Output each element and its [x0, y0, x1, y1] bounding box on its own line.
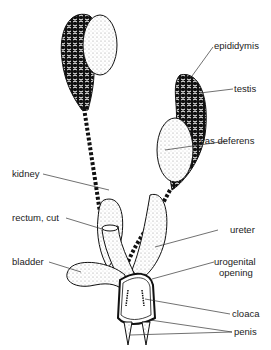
label-bladder: bladder [12, 256, 44, 267]
label-ureter: ureter [230, 224, 255, 235]
label-kidney: kidney [12, 168, 39, 179]
label-vas-deferens: vas deferens [200, 135, 254, 146]
anatomy-illustration [0, 0, 271, 350]
right-kidney [132, 194, 167, 280]
penis-left [124, 322, 132, 345]
label-rectum: rectum, cut [12, 212, 59, 223]
right-testis [157, 118, 193, 182]
label-urogenital: urogenital [214, 256, 256, 267]
label-penis: penis [234, 326, 257, 337]
left-testis [83, 15, 117, 75]
label-testis: testis [234, 83, 256, 94]
label-opening: opening [219, 267, 253, 278]
penis-right [142, 322, 150, 345]
diagram-canvas: epididymis testis vas deferens kidney re… [0, 0, 271, 350]
label-epididymis: epididymis [214, 40, 259, 51]
label-cloaca: cloaca [232, 308, 259, 319]
